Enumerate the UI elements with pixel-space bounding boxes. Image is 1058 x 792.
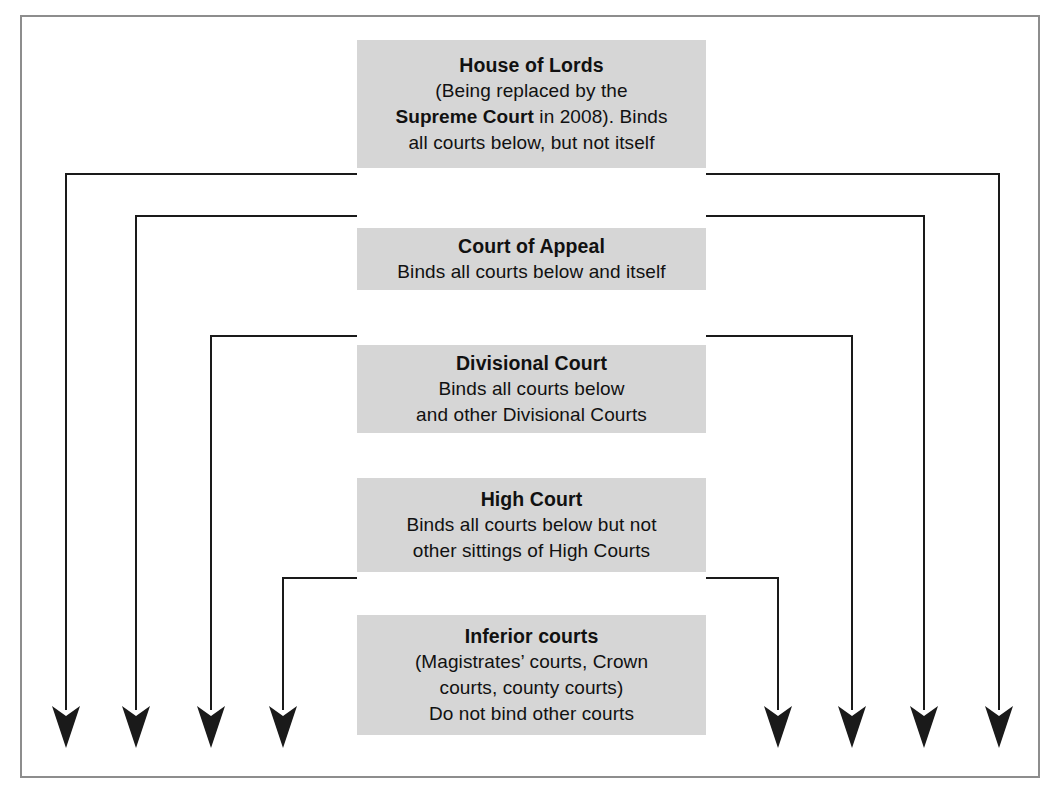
plain-text: Do not bind other courts xyxy=(429,703,634,724)
connector-path xyxy=(136,216,357,710)
connector-div-left xyxy=(197,336,357,748)
court-desc-line: Binds all courts below but not xyxy=(406,512,656,538)
court-desc-line: Binds all courts below and itself xyxy=(397,259,665,285)
plain-text: Binds all courts below and itself xyxy=(397,261,665,282)
court-box-inferior-courts: Inferior courts(Magistrates’ courts, Cro… xyxy=(357,615,706,735)
court-desc-line: and other Divisional Courts xyxy=(416,402,647,428)
arrowhead-icon xyxy=(985,706,1013,748)
connector-hol-right xyxy=(706,174,1013,748)
court-box-court-of-appeal: Court of AppealBinds all courts below an… xyxy=(357,228,706,290)
plain-text: Binds all courts below xyxy=(439,378,625,399)
plain-text: (Magistrates’ courts, Crown xyxy=(415,651,648,672)
arrowhead-icon xyxy=(197,706,225,748)
arrowhead-icon xyxy=(838,706,866,748)
court-box-high-court: High CourtBinds all courts below but not… xyxy=(357,478,706,572)
court-desc-line: Do not bind other courts xyxy=(429,701,634,727)
court-desc-line: Binds all courts below xyxy=(439,376,625,402)
court-title-inferior-courts: Inferior courts xyxy=(465,623,599,649)
connector-high-right xyxy=(706,578,792,748)
court-desc-line: Supreme Court in 2008). Binds xyxy=(395,104,667,130)
court-title-house-of-lords: House of Lords xyxy=(459,52,603,78)
arrowhead-icon xyxy=(910,706,938,748)
arrowhead-icon xyxy=(764,706,792,748)
arrowhead-icon xyxy=(122,706,150,748)
plain-text: in 2008). Binds xyxy=(534,106,668,127)
arrowhead-icon xyxy=(269,706,297,748)
connector-hol-left xyxy=(52,174,357,748)
connector-path xyxy=(706,216,924,710)
court-desc-line: (Being replaced by the xyxy=(435,78,627,104)
court-desc-line: all courts below, but not itself xyxy=(408,130,654,156)
arrowhead-icon xyxy=(52,706,80,748)
connector-path xyxy=(283,578,357,710)
plain-text: Binds all courts below but not xyxy=(406,514,656,535)
court-title-high-court: High Court xyxy=(481,486,583,512)
connector-coa-right xyxy=(706,216,938,748)
court-box-house-of-lords: House of Lords(Being replaced by theSupr… xyxy=(357,40,706,168)
plain-text: (Being replaced by the xyxy=(435,80,627,101)
emphasis-text: Supreme Court xyxy=(395,106,534,127)
connector-div-right xyxy=(706,336,866,748)
diagram-canvas: Hierarchy of the courts and binding prec… xyxy=(0,0,1058,792)
court-desc-line: courts, county courts) xyxy=(440,675,624,701)
court-box-divisional-court: Divisional CourtBinds all courts belowan… xyxy=(357,345,706,433)
plain-text: all courts below, but not itself xyxy=(408,132,654,153)
connector-high-left xyxy=(269,578,357,748)
court-desc-line: (Magistrates’ courts, Crown xyxy=(415,649,648,675)
court-title-divisional-court: Divisional Court xyxy=(456,350,607,376)
plain-text: other sittings of High Courts xyxy=(413,540,650,561)
plain-text: and other Divisional Courts xyxy=(416,404,647,425)
connector-path xyxy=(706,578,778,710)
plain-text: courts, county courts) xyxy=(440,677,624,698)
court-desc-line: other sittings of High Courts xyxy=(413,538,650,564)
connector-coa-left xyxy=(122,216,357,748)
court-title-court-of-appeal: Court of Appeal xyxy=(458,233,605,259)
